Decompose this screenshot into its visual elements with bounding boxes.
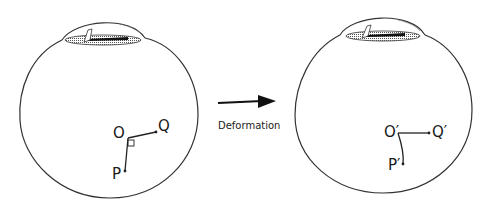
point-label-O-prime: O′ bbox=[384, 125, 399, 140]
point-label-P-prime: P′ bbox=[388, 158, 400, 173]
left-eye-globe bbox=[20, 38, 198, 198]
point-label-P: P bbox=[112, 167, 121, 182]
left-eye bbox=[20, 23, 198, 198]
point-label-Q: Q bbox=[158, 119, 170, 134]
left-eye-highlight bbox=[120, 24, 142, 35]
right-eye-globe bbox=[295, 35, 472, 193]
point-label-Q-prime: Q′ bbox=[432, 125, 447, 140]
right-eye-highlight bbox=[398, 20, 420, 31]
right-eye bbox=[295, 18, 472, 193]
vector-OQ bbox=[128, 132, 156, 138]
deformation-caption: Deformation bbox=[218, 121, 280, 131]
right-angle-marker bbox=[128, 140, 134, 146]
diagram-canvas bbox=[0, 0, 491, 206]
point-label-O: O bbox=[113, 126, 125, 141]
deformation-arrow bbox=[218, 95, 276, 108]
